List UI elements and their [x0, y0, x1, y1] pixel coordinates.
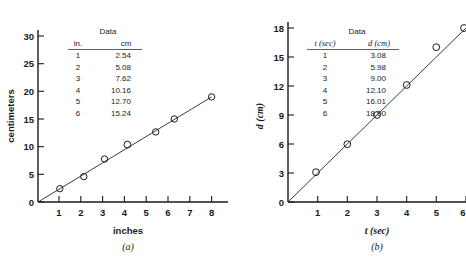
- x-tick-label-a: 8: [209, 207, 214, 218]
- data-table-cell-a: 10.16: [111, 86, 132, 95]
- data-table-header-b: d (cm): [368, 38, 390, 48]
- data-table-cell-a: 2: [76, 63, 81, 72]
- data-table-cell-b: 5.98: [370, 63, 386, 72]
- panel-b: 0 3 6 9 12 15 18 1 2 3 4: [233, 0, 466, 257]
- y-tick-label-a: 10: [23, 141, 34, 152]
- chart-a: 0 5 10 15 20 25 30 1 2: [0, 0, 233, 257]
- data-table-header-a: in.: [74, 39, 82, 48]
- y-tick-label-b: 12: [273, 81, 284, 92]
- x-tick-label-a: 6: [165, 207, 170, 218]
- data-table-cell-b: 1: [323, 51, 328, 60]
- x-tick-labels-a: 1 2 3 4 5 6 7 8: [56, 207, 214, 218]
- y-tick-label-a: 5: [29, 169, 35, 180]
- y-axis-title-a: centimeters: [5, 89, 16, 142]
- data-table-cell-b: 9.00: [370, 74, 386, 83]
- data-table-cell-a: 4: [76, 86, 81, 95]
- y-tick-label-b: 6: [279, 139, 284, 150]
- data-table-header-b: t (sec): [314, 38, 335, 48]
- data-table-cell-b: 12.10: [366, 86, 387, 95]
- data-table-cell-b: 3.08: [370, 51, 386, 60]
- y-tick-label-a: 20: [23, 86, 34, 97]
- y-ticks-b: [288, 28, 294, 202]
- y-tick-labels-a: 0 5 10 15 20 25 30: [23, 31, 34, 208]
- x-tick-label-a: 2: [78, 207, 83, 218]
- data-table-cell-b: 6: [323, 109, 328, 118]
- y-tick-label-a: 0: [29, 197, 34, 208]
- data-table-cell-a: 6: [76, 109, 81, 118]
- data-table-header-a: cm: [121, 39, 132, 48]
- panel-a: 0 5 10 15 20 25 30 1 2: [0, 0, 233, 257]
- y-axis-title-b: d (cm): [254, 103, 266, 129]
- data-table-cell-b: 5: [323, 97, 328, 106]
- x-tick-label-b: 2: [345, 207, 350, 218]
- x-tick-label-b: 4: [404, 207, 410, 218]
- data-table-cell-a: 7.62: [115, 74, 131, 83]
- data-table-cell-b: 18.00: [366, 109, 387, 118]
- y-tick-label-a: 15: [23, 114, 34, 125]
- x-tick-label-a: 1: [56, 207, 62, 218]
- x-ticks-a: [59, 196, 212, 202]
- data-table-cell-b: 3: [323, 74, 328, 83]
- y-tick-label-b: 3: [279, 168, 284, 179]
- data-table-cell-b: 2: [323, 63, 328, 72]
- x-tick-label-a: 3: [100, 207, 105, 218]
- data-table-cell-a: 5: [76, 97, 81, 106]
- data-table-cell-a: 15.24: [111, 109, 132, 118]
- x-tick-label-a: 4: [122, 207, 128, 218]
- data-table-cell-a: 1: [76, 51, 81, 60]
- data-table-title-a: Data: [100, 27, 117, 36]
- x-tick-label-a: 5: [144, 207, 150, 218]
- x-tick-label-b: 1: [315, 207, 321, 218]
- y-ticks-a: [38, 36, 44, 202]
- y-tick-label-b: 15: [273, 52, 284, 63]
- x-tick-label-a: 7: [187, 207, 192, 218]
- x-tick-label-b: 6: [460, 207, 465, 218]
- y-tick-label-b: 0: [279, 197, 284, 208]
- data-table-cell-a: 5.08: [115, 63, 131, 72]
- y-tick-label-a: 30: [23, 31, 34, 42]
- data-table-b: Data t (sec) d (cm) 1 3.08 2 5.98 3 9.00…: [307, 27, 399, 118]
- panel-caption-b: (b): [371, 241, 383, 253]
- data-table-a: Data in. cm 1 2.54 2 5.08 3 7.62 4 10.16…: [68, 27, 142, 118]
- figure-pair: 0 5 10 15 20 25 30 1 2: [0, 0, 466, 257]
- x-tick-label-b: 5: [434, 207, 440, 218]
- x-ticks-b: [318, 196, 466, 202]
- y-tick-labels-b: 0 3 6 9 12 15 18: [273, 23, 284, 208]
- x-tick-label-b: 3: [374, 207, 379, 218]
- y-tick-label-b: 18: [273, 23, 284, 34]
- data-table-title-b: Data: [349, 27, 366, 36]
- data-table-cell-b: 16.01: [366, 97, 387, 106]
- x-axis-title-a: inches: [113, 225, 143, 236]
- chart-b: 0 3 6 9 12 15 18 1 2 3 4: [233, 0, 466, 257]
- data-table-cell-a: 2.54: [115, 51, 131, 60]
- y-tick-label-a: 25: [23, 58, 34, 69]
- data-table-cell-b: 4: [323, 86, 328, 95]
- y-tick-label-b: 9: [279, 110, 284, 121]
- data-table-cell-a: 3: [76, 74, 81, 83]
- data-table-cell-a: 12.70: [111, 97, 132, 106]
- panel-caption-a: (a): [122, 241, 134, 253]
- x-tick-labels-b: 1 2 3 4 5 6: [315, 207, 466, 218]
- x-axis-title-b: t (sec): [365, 225, 390, 237]
